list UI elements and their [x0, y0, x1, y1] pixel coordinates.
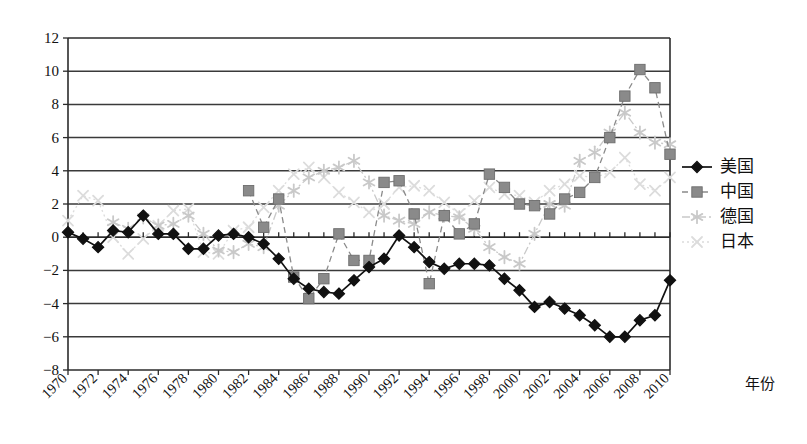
legend-label-japan: 日本 [720, 231, 754, 251]
y-tick-label: −6 [43, 329, 59, 345]
y-tick-label: 4 [52, 163, 60, 179]
data-point [349, 255, 359, 265]
data-point [665, 149, 675, 159]
y-tick-label: 6 [52, 130, 60, 146]
data-point [692, 187, 702, 197]
data-point [243, 186, 253, 196]
data-point [620, 91, 630, 101]
y-tick-label: −2 [43, 262, 59, 278]
x-axis-title: 年份 [745, 375, 775, 393]
y-tick-label: −4 [43, 296, 59, 312]
data-point [544, 209, 554, 219]
data-point [274, 194, 284, 204]
y-tick-label: 0 [52, 229, 60, 245]
data-point [454, 229, 464, 239]
y-tick-label: 2 [52, 196, 60, 212]
chart-figure: 1970197219741976197819801982198419861988… [0, 0, 807, 444]
data-point [514, 199, 524, 209]
data-point [439, 210, 449, 220]
legend-label-usa: 美国 [720, 156, 754, 176]
data-point [650, 83, 660, 93]
data-point [379, 177, 389, 187]
y-tick-label: 10 [44, 63, 59, 79]
data-point [605, 132, 615, 142]
data-point [529, 200, 539, 210]
data-point [499, 182, 509, 192]
data-point [575, 187, 585, 197]
data-point [469, 219, 479, 229]
data-point [559, 194, 569, 204]
data-point [319, 274, 329, 284]
data-point [394, 176, 404, 186]
data-point [334, 229, 344, 239]
data-point [424, 278, 434, 288]
data-point [409, 209, 419, 219]
legend-label-germany: 德国 [720, 206, 754, 226]
data-point [635, 64, 645, 74]
data-point [258, 222, 268, 232]
data-point [484, 169, 494, 179]
data-point [590, 172, 600, 182]
legend-label-china: 中国 [720, 181, 754, 201]
y-tick-label: 8 [52, 96, 60, 112]
y-tick-label: −8 [43, 362, 59, 378]
y-tick-label: 12 [44, 30, 59, 46]
